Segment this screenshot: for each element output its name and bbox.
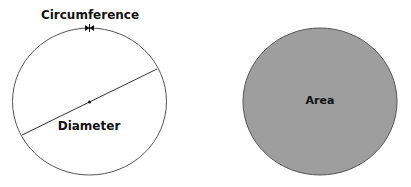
diameter-label: Diameter: [58, 119, 121, 133]
circumference-marker-icon: [85, 24, 94, 32]
center-point: [88, 101, 91, 104]
right-circle-group: Area: [243, 28, 397, 175]
circle-diagram: Circumference Diameter Area: [0, 0, 411, 187]
area-label: Area: [306, 94, 335, 107]
left-circle-group: Circumference Diameter: [13, 8, 167, 175]
circumference-label: Circumference: [41, 8, 139, 22]
